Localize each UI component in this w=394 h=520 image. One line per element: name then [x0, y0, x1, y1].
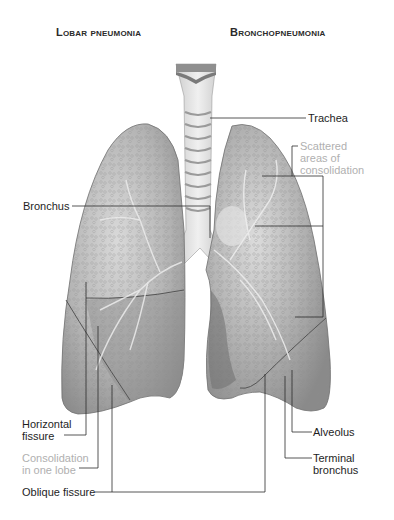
- consolidation-one-lobe-label: Consolidation in one lobe: [22, 452, 89, 476]
- horizontal-fissure-label: Horizontal fissure: [22, 418, 72, 442]
- oblique-fissure-label: Oblique fissure: [22, 486, 95, 498]
- alveolus-label: Alveolus: [313, 426, 355, 438]
- trachea-label: Trachea: [308, 112, 348, 124]
- scattered-consolidation-label: Scattered areas of consolidation: [300, 140, 364, 176]
- left-lung: [62, 124, 185, 414]
- lung-illustration: [0, 0, 394, 520]
- scattered-leader-top: [292, 146, 298, 176]
- bronchus-label: Bronchus: [23, 200, 69, 212]
- terminal-bronchus-label: Terminal bronchus: [313, 452, 358, 476]
